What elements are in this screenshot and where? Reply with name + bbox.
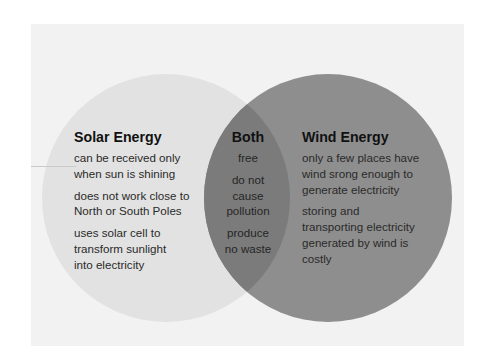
text-line: storing and	[302, 204, 359, 217]
solar-item: uses solar cell to transform sunlight in…	[74, 225, 204, 272]
text-line: into electricity	[74, 258, 144, 271]
text-line: can be received only	[74, 151, 180, 164]
text-line: transform sunlight	[74, 242, 166, 255]
text-line: when sun is shining	[74, 167, 175, 180]
text-line: generate electricity	[302, 183, 399, 196]
text-line: uses solar cell to	[74, 226, 160, 239]
both-item: free	[218, 150, 278, 166]
solar-energy-column: Solar Energy can be received only when s…	[74, 128, 204, 279]
both-item: do not cause pollution	[218, 172, 278, 219]
text-line: North or South Poles	[74, 204, 182, 217]
solar-energy-title: Solar Energy	[74, 128, 204, 146]
text-line: transporting electricity	[302, 220, 415, 233]
both-column: Both free do not cause pollution produce…	[218, 128, 278, 263]
text-line: cause	[233, 189, 264, 202]
wind-energy-column: Wind Energy only a few places have wind …	[302, 128, 437, 273]
wind-item: storing and transporting electricity gen…	[302, 203, 437, 266]
both-title: Both	[218, 128, 278, 146]
text-line: free	[238, 151, 258, 164]
wind-energy-title: Wind Energy	[302, 128, 437, 146]
solar-item: can be received only when sun is shining	[74, 150, 204, 182]
solar-item: does not work close to North or South Po…	[74, 188, 204, 220]
both-item: produce no waste	[218, 225, 278, 257]
text-line: do not	[232, 173, 264, 186]
text-line: costly	[302, 252, 332, 265]
stray-line	[31, 166, 76, 167]
text-line: only a few places have	[302, 151, 419, 164]
wind-item: only a few places have wind srong enough…	[302, 150, 437, 197]
text-line: no waste	[225, 242, 271, 255]
text-line: pollution	[226, 204, 269, 217]
text-line: produce	[227, 226, 269, 239]
text-line: does not work close to	[74, 189, 189, 202]
text-line: wind srong enough to	[302, 167, 413, 180]
text-line: generated by wind is	[302, 236, 408, 249]
